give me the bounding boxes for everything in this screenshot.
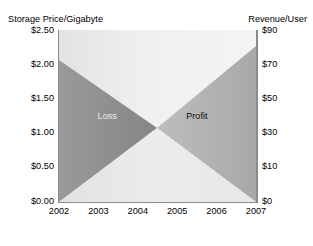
right-axis-title: Revenue/User (248, 14, 307, 25)
x-tick-label: 2007 (246, 206, 266, 217)
chart-bands-svg (59, 30, 256, 202)
right-axis-line (256, 30, 258, 203)
left-axis-ticks: $2.50 $2.00 $1.50 $1.00 $0.50 $0.00 (8, 30, 54, 202)
right-tick-label: $0 (262, 196, 310, 206)
x-tick-label: 2003 (88, 206, 108, 217)
left-tick-label: $0.00 (8, 196, 54, 206)
x-axis-ticks: 2002 2003 2004 2005 2006 2007 (59, 206, 256, 222)
right-tick-label: $10 (262, 161, 310, 171)
x-tick-label: 2002 (49, 206, 69, 217)
left-axis-title: Storage Price/Gigabyte (8, 14, 103, 25)
x-tick-label: 2004 (128, 206, 148, 217)
left-axis-line (58, 30, 59, 203)
plot-area: Loss Profit (59, 30, 256, 202)
x-tick-label: 2005 (167, 206, 187, 217)
left-tick-label: $2.00 (8, 59, 54, 69)
region-label-loss: Loss (98, 111, 117, 122)
right-tick-label: $90 (262, 25, 310, 35)
left-tick-label: $1.00 (8, 127, 54, 137)
left-tick-label: $1.50 (8, 93, 54, 103)
chart-container: Storage Price/Gigabyte Revenue/User (0, 0, 313, 246)
right-tick-label: $30 (262, 127, 310, 137)
right-axis-ticks: $90 $70 $50 $30 $10 $0 (262, 30, 310, 202)
region-label-profit: Profit (186, 111, 207, 122)
left-tick-label: $2.50 (8, 25, 54, 35)
right-tick-label: $50 (262, 93, 310, 103)
right-tick-label: $70 (262, 59, 310, 69)
x-tick-label: 2006 (206, 206, 226, 217)
left-tick-label: $0.50 (8, 161, 54, 171)
bottom-axis-line (58, 202, 257, 203)
